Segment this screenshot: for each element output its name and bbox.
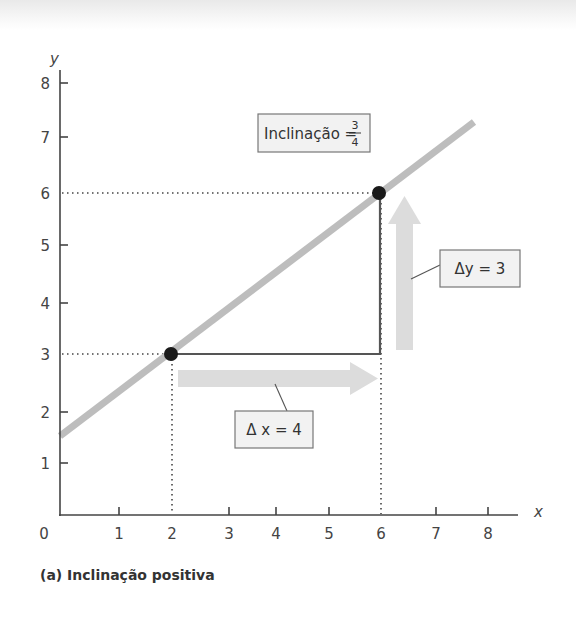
chart-caption: (a) Inclinação positiva xyxy=(40,567,215,583)
x-tick-5: 5 xyxy=(324,525,334,543)
y-tick-3: 3 xyxy=(40,346,50,364)
y-tick-labels: 8 7 6 5 4 3 2 1 xyxy=(40,75,50,473)
y-tick-8: 8 xyxy=(40,75,50,93)
slope-numerator: 3 xyxy=(352,119,359,132)
x-tick-4: 4 xyxy=(271,525,281,543)
y-tick-1: 1 xyxy=(40,455,50,473)
point-2-3 xyxy=(164,347,178,361)
x-tick-2: 2 xyxy=(167,525,177,543)
y-tick-7: 7 xyxy=(40,129,50,147)
y-tick-4: 4 xyxy=(40,295,50,313)
delta-y-arrow xyxy=(388,196,421,350)
x-tick-labels: 0 1 2 3 4 5 6 7 8 xyxy=(39,525,493,543)
y-axis-title: y xyxy=(49,50,60,68)
x-tick-6: 6 xyxy=(376,525,386,543)
slope-denominator: 4 xyxy=(352,136,359,149)
delta-x-text: Δ x = 4 xyxy=(246,421,302,439)
point-6-6 xyxy=(372,186,386,200)
delta-y-text: Δy = 3 xyxy=(455,260,506,278)
slope-label-box: Inclinação = 3 4 xyxy=(258,114,370,152)
x-tick-7: 7 xyxy=(431,525,441,543)
y-tick-2: 2 xyxy=(40,404,50,422)
x-axis-title: x xyxy=(533,503,543,521)
y-tick-5: 5 xyxy=(40,237,50,255)
slope-label-text: Inclinação = xyxy=(264,125,357,143)
x-tick-8: 8 xyxy=(483,525,493,543)
y-tick-6: 6 xyxy=(40,185,50,203)
x-tick-3: 3 xyxy=(224,525,234,543)
x-tick-1: 1 xyxy=(114,525,124,543)
delta-x-label-box: Δ x = 4 xyxy=(235,384,313,448)
x-tick-0: 0 xyxy=(39,525,49,543)
delta-y-label-box: Δy = 3 xyxy=(411,250,520,287)
slope-chart: 8 7 6 5 4 3 2 1 0 1 2 3 4 5 6 7 8 y x In… xyxy=(0,0,576,625)
